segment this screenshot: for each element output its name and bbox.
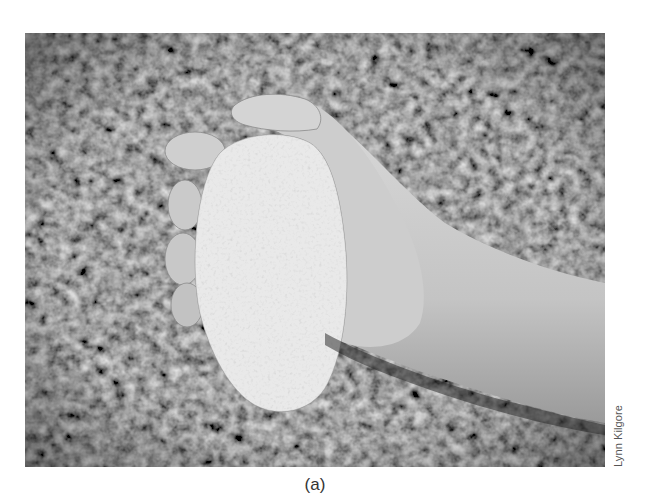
hand-holding-rock-image xyxy=(25,33,605,467)
figure-caption: (a) xyxy=(0,475,630,495)
photo-credit: Lynn Kilgore xyxy=(612,405,624,467)
finger-2 xyxy=(168,180,202,230)
figure-photo xyxy=(25,33,605,467)
